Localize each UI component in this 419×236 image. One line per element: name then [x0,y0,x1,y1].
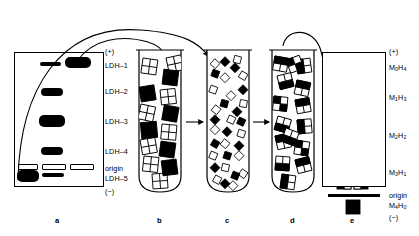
right-composition-m4h0: M4H0 [389,202,406,210]
panel-e-gel [322,52,386,187]
panel-label-c: c [225,216,229,225]
panel-label-d: d [290,216,295,225]
right-polarity-top: (+) [389,48,398,55]
right-composition-m2h2: M2H2 [389,132,406,140]
ldh-isozyme-figure: (+) LDH–1 LDH–2 LDH–3 LDH–4 origin LDH–5… [0,0,419,236]
right-composition-m3h1: M3H1 [389,169,406,177]
panel-label-b: b [157,216,162,225]
right-composition-m1h3: M1H3 [389,94,406,102]
panel-label-a: a [55,216,59,225]
right-polarity-bottom: (−) [389,214,398,221]
panel-e-origin-bar [328,194,380,197]
right-origin-label: origin [389,192,407,199]
panel-label-e: e [350,216,354,225]
right-composition-m0h4: M0H4 [389,64,406,72]
